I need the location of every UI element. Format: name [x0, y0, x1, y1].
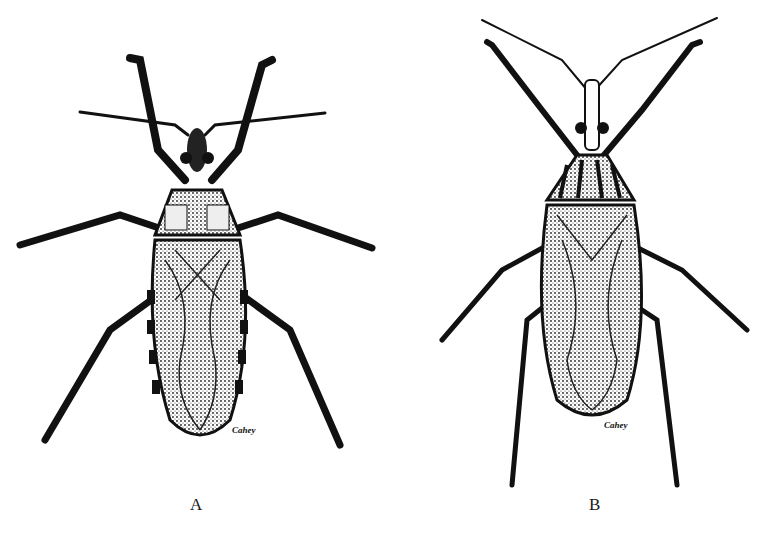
- panel-label-b: B: [589, 495, 600, 515]
- artist-signature-a: Cahey: [232, 425, 256, 435]
- insect-a-illustration: [0, 0, 382, 537]
- panel-b: Cahey B: [382, 0, 764, 537]
- insect-b-illustration: [382, 0, 764, 537]
- artist-signature-b: Cahey: [604, 420, 628, 430]
- panel-label-a: A: [190, 495, 202, 515]
- panel-a: Cahey A: [0, 0, 382, 537]
